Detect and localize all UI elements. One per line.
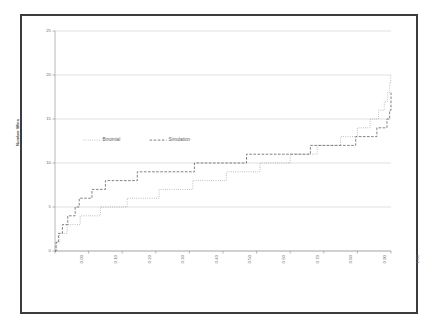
x-tick-label: 0.30 — [180, 255, 185, 277]
legend-label-binomial: Binomial — [103, 137, 121, 142]
x-tick-label: 0.00 — [79, 255, 84, 277]
y-tick-label: 20 — [31, 72, 51, 77]
x-tick-label: 0.40 — [214, 255, 219, 277]
y-tick-label: 5 — [31, 204, 51, 209]
y-axis-title: Number Wins — [15, 103, 20, 163]
x-tick-label: 0.20 — [147, 255, 152, 277]
y-tick-label: 10 — [31, 160, 51, 165]
x-tick-label: 0.80 — [348, 255, 353, 277]
x-tick-label: 0.90 — [382, 255, 387, 277]
x-tick-label: 1.00 — [415, 255, 420, 277]
y-tick-label: 15 — [31, 116, 51, 121]
y-tick-label: 25 — [31, 28, 51, 33]
legend-label-simulation: Simulation — [169, 137, 190, 142]
chart-canvas — [27, 20, 411, 308]
series-line-simulation — [55, 93, 391, 251]
x-tick-label: 0.70 — [315, 255, 320, 277]
x-tick-label: 0.50 — [247, 255, 252, 277]
plot-container — [27, 20, 411, 308]
x-tick-label: 0.60 — [281, 255, 286, 277]
x-tick-label: 0.10 — [113, 255, 118, 277]
y-tick-label: 0 — [31, 248, 51, 253]
